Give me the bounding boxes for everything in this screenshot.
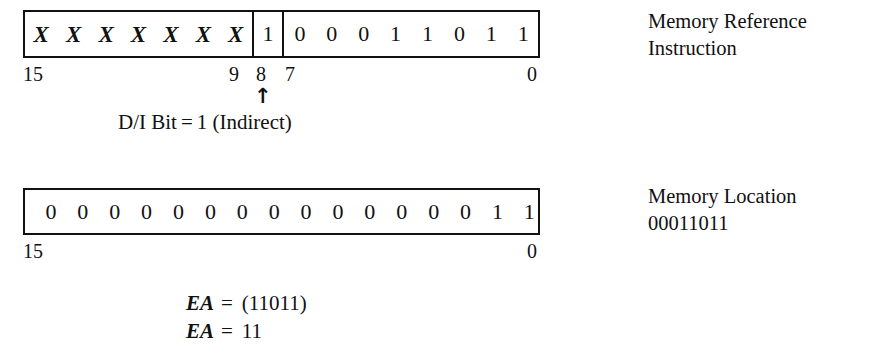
opcode-bit: X	[57, 23, 89, 46]
memory-bit: 0	[67, 201, 99, 223]
ea-symbol: EA	[186, 291, 214, 315]
memory-bit: 0	[163, 201, 195, 223]
address-bit: 0	[316, 23, 348, 45]
ea-value: 11	[242, 319, 262, 343]
memory-bit: 0	[386, 201, 418, 223]
address-bit: 1	[475, 23, 507, 45]
instruction-annotation-line2: Instruction	[648, 35, 807, 62]
memory-bit: 0	[354, 201, 386, 223]
memory-bit: 1	[481, 201, 513, 223]
memory-bit: 0	[131, 201, 163, 223]
bit-label-15-memory: 15	[23, 241, 43, 261]
effective-address-line-2: EA=11	[186, 318, 307, 346]
di-caption-label: D/I Bit	[118, 110, 177, 134]
bit-label-0-instruction: 0	[527, 64, 537, 84]
instruction-annotation-line1: Memory Reference	[648, 8, 807, 35]
address-bit: 1	[507, 23, 539, 45]
ea-symbol: EA	[186, 319, 214, 343]
di-bit-value: 1	[254, 23, 282, 45]
opcode-bit: X	[187, 23, 219, 46]
memory-bit: 0	[35, 201, 67, 223]
memory-bit: 0	[194, 201, 226, 223]
address-bit: 0	[284, 23, 316, 45]
memory-bit: 0	[226, 201, 258, 223]
di-caption-value: 1	[197, 110, 208, 134]
memory-annotation-line2: 00011011	[648, 210, 797, 237]
instruction-word-box: X X X X X X X 1 0 0 0 1 1 0 1 1	[23, 10, 540, 58]
memory-annotation: Memory Location 00011011	[648, 183, 797, 236]
bit-label-0-memory: 0	[527, 241, 537, 261]
address-bit: 1	[412, 23, 444, 45]
effective-address-line-1: EA=(11011)	[186, 290, 307, 318]
memory-annotation-line1: Memory Location	[648, 183, 797, 210]
memory-word-field: 0 0 0 0 0 0 0 0 0 0 0 0 0 0 1 1	[25, 190, 555, 233]
bit-label-9-instruction: 9	[229, 64, 239, 84]
memory-bit: 0	[258, 201, 290, 223]
address-bit: 0	[443, 23, 475, 45]
opcode-bit: X	[122, 23, 154, 46]
opcode-field: X X X X X X X	[25, 12, 252, 56]
memory-bit: 0	[418, 201, 450, 223]
bit-label-15-instruction: 15	[23, 64, 43, 84]
memory-bit: 0	[322, 201, 354, 223]
ea-operator: =	[214, 319, 242, 343]
opcode-bit: X	[90, 23, 122, 46]
ea-operator: =	[214, 291, 242, 315]
opcode-bit: X	[220, 23, 252, 46]
up-arrow-icon: ↑	[254, 86, 272, 107]
address-field: 0 0 0 1 1 0 1 1	[282, 12, 539, 56]
bit-label-7-instruction: 7	[285, 64, 295, 84]
di-bit-caption: D/I Bit=1 (Indirect)	[118, 110, 292, 134]
effective-address-block: EA=(11011) EA=11	[186, 290, 307, 345]
memory-bit: 0	[450, 201, 482, 223]
memory-bit: 1	[513, 201, 545, 223]
indirect-addressing-figure: X X X X X X X 1 0 0 0 1 1 0 1 1 15 9 8 7…	[0, 0, 881, 359]
bit-label-8-instruction: 8	[256, 64, 266, 84]
opcode-bit: X	[155, 23, 187, 46]
address-bit: 0	[348, 23, 380, 45]
memory-word-box: 0 0 0 0 0 0 0 0 0 0 0 0 0 0 1 1	[23, 188, 540, 235]
di-caption-note: (Indirect)	[213, 110, 292, 134]
memory-bit: 0	[99, 201, 131, 223]
address-bit: 1	[380, 23, 412, 45]
memory-bit: 0	[290, 201, 322, 223]
di-caption-equals: =	[177, 110, 197, 134]
opcode-bit: X	[25, 23, 57, 46]
direct-indirect-bit-field: 1	[252, 12, 282, 56]
ea-value: (11011)	[242, 291, 307, 315]
instruction-annotation: Memory Reference Instruction	[648, 8, 807, 61]
